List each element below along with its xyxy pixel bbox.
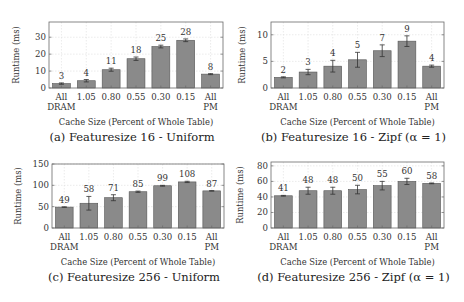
y-tick-label: 0 [263,223,268,233]
bar [299,191,317,228]
value-label: 48 [327,175,338,185]
x-tick-label: 0.80 [323,232,342,242]
x-tick-label: 0.30 [373,232,392,242]
y-axis-label: Runtime (ms) [235,166,245,223]
y-tick-label: 20 [257,207,268,217]
y-tick-label: 40 [257,192,268,202]
bar [398,181,416,228]
x-tick-label: 0.15 [397,232,416,242]
x-tick-label: 0.55 [348,232,367,242]
bar [274,196,292,228]
y-tick-label: 60 [257,176,268,186]
chart-d: 41484850556058020406080AllDRAM1.050.800.… [0,0,464,302]
x-axis-label: Cache Size (Percent of Whole Table) [280,257,434,267]
figure-caption: (d) Featuresize 256 - Zipf (α = 1) [257,270,450,284]
value-label: 60 [401,166,412,176]
value-label: 55 [377,169,388,179]
value-label: 48 [303,175,314,185]
y-tick-label: 80 [257,161,268,171]
x-tick-label: All [425,232,438,242]
bar [373,186,391,228]
x-tick-label: DRAM [269,242,298,252]
value-label: 58 [426,171,437,181]
x-tick-label: PM [424,242,439,252]
value-label: 41 [278,183,289,193]
bar [423,183,441,228]
value-label: 50 [352,173,363,183]
x-tick-label: 1.05 [299,232,318,242]
x-tick-label: All [277,232,290,242]
bar [349,190,367,228]
bar [324,191,342,228]
